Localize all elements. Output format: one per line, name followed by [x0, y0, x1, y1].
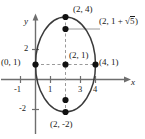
label-top-vertex: (2, 4) [73, 5, 93, 14]
sqrt-expression: √5 [125, 16, 135, 26]
label-bottom-vertex: (2, -2) [50, 120, 73, 129]
y-axis-label: y [24, 17, 28, 26]
point-left-covertex [32, 61, 38, 67]
y-tick-label-neg2: -2 [19, 104, 26, 113]
y-tick-label-2: 2 [24, 44, 28, 53]
radical-sign-icon: √ [125, 17, 130, 26]
label-left-covertex: (0, 1) [1, 58, 21, 67]
label-right-covertex: (4, 1) [99, 58, 119, 67]
point-center [62, 61, 68, 67]
label-upper-focus-suffix: ) [135, 16, 138, 26]
point-lower-focus [62, 97, 68, 103]
label-center: (2, 1) [69, 51, 89, 60]
point-right-covertex [92, 61, 98, 67]
point-upper-focus [62, 26, 68, 32]
label-upper-focus: (2, 1 + √5) [99, 16, 138, 26]
point-top-vertex [62, 14, 68, 20]
ellipse-figure: y x -1 1 3 4 2 -2 (2, 4) (2, 1 + √5) (0,… [0, 0, 145, 139]
x-tick-label-1: 1 [48, 85, 52, 94]
x-tick-label-3: 3 [78, 85, 82, 94]
x-tick-label-4: 4 [93, 85, 97, 94]
point-bottom-vertex [62, 109, 68, 115]
x-tick-label-neg1: -1 [14, 85, 21, 94]
label-upper-focus-prefix: (2, 1 + [99, 16, 125, 26]
x-axis-label: x [131, 78, 135, 87]
